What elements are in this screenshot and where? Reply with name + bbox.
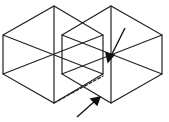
diagram-svg xyxy=(0,0,169,122)
cube-diagram xyxy=(0,0,169,122)
arrow-upper xyxy=(106,28,125,62)
left-cube xyxy=(3,6,103,103)
arrow-lower xyxy=(77,97,100,117)
